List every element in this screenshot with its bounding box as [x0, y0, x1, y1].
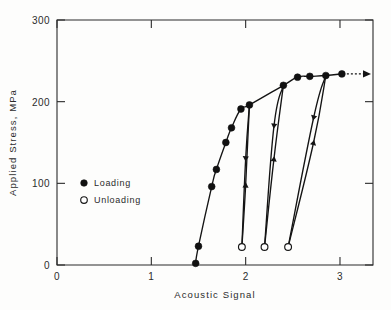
x-tick-label: 1 — [148, 271, 154, 282]
legend-label: Loading — [94, 178, 131, 188]
data-point-unloading — [285, 244, 292, 251]
data-point-loading — [195, 243, 202, 250]
data-point-loading — [238, 106, 245, 113]
y-axis-title: Applied Stress, MPa — [7, 89, 18, 196]
chart-canvas: 0100200300 0123 Acoustic Signal Applied … — [0, 0, 391, 310]
y-tick-label: 100 — [32, 178, 50, 189]
unload-direction-arrow-icon — [271, 123, 277, 129]
y-axis-ticks — [57, 20, 373, 265]
reload-direction-arrow-icon — [310, 140, 316, 146]
x-tick-label: 2 — [243, 271, 249, 282]
series-curve — [242, 105, 250, 247]
continuation-arrow-icon — [363, 70, 371, 77]
data-point-loading — [213, 166, 220, 173]
legend-label: Unloading — [94, 195, 141, 205]
unload-direction-arrow-icon — [243, 156, 249, 161]
data-point-unloading — [238, 244, 245, 251]
data-point-loading — [246, 102, 253, 109]
y-tick-label: 300 — [32, 15, 50, 26]
x-axis-tick-labels: 0123 — [54, 271, 343, 282]
legend-marker-loading — [81, 180, 88, 187]
y-tick-label: 0 — [44, 260, 50, 271]
data-point-loading — [294, 74, 301, 81]
data-point-loading — [228, 124, 235, 131]
data-point-loading — [322, 72, 329, 79]
annotation-layer — [347, 70, 371, 77]
data-point-loading — [338, 71, 345, 78]
reload-direction-arrow-icon — [242, 182, 248, 187]
series-curve — [288, 76, 326, 248]
data-point-loading — [280, 82, 287, 89]
unload-direction-arrow-icon — [311, 115, 317, 121]
data-point-loading — [222, 139, 229, 146]
legend-marker-unloading — [81, 197, 88, 204]
plot-frame — [57, 20, 373, 265]
data-point-loading — [192, 260, 199, 267]
data-point-loading — [208, 183, 215, 190]
x-tick-label: 0 — [54, 271, 60, 282]
series-curve — [265, 85, 284, 247]
chart-legend: LoadingUnloading — [81, 178, 141, 205]
data-point-unloading — [261, 244, 268, 251]
y-axis-tick-labels: 0100200300 — [32, 15, 50, 271]
series-curve — [288, 76, 326, 248]
x-axis-title: Acoustic Signal — [174, 289, 255, 300]
data-point-loading — [306, 73, 313, 80]
chart-figure: 0100200300 0123 Acoustic Signal Applied … — [0, 0, 391, 310]
y-tick-label: 200 — [32, 97, 50, 108]
x-tick-label: 3 — [337, 271, 343, 282]
x-axis-ticks — [57, 20, 340, 265]
